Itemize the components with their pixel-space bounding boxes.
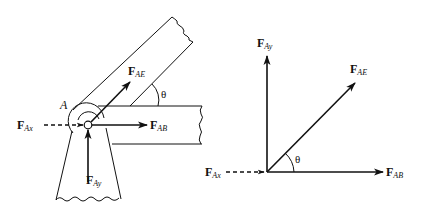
truss-joint-diagram: θ A FAx FAB FAE FAy FAy: [0, 0, 422, 213]
force-fay-label-left: FAy: [86, 173, 102, 188]
theta-label-right: θ: [295, 153, 300, 165]
force-fae-label-right: FAE: [350, 62, 367, 77]
left-panel-joint-sketch: θ A FAx FAB FAE FAy: [17, 17, 203, 201]
theta-label-left: θ: [161, 88, 166, 100]
force-fax-label-left: FAx: [17, 118, 33, 133]
force-fab-label-right: FAB: [386, 165, 403, 180]
point-a-label: A: [59, 98, 68, 112]
force-fax-label-right: FAx: [205, 165, 221, 180]
force-fay-label-right: FAy: [257, 36, 273, 51]
force-fae-arrow-right: [267, 83, 355, 172]
joint-inner-arc: [78, 112, 99, 120]
theta-arc-right: [285, 153, 294, 172]
theta-arc-left: [152, 84, 159, 106]
right-panel-free-body-diagram: FAy FAE FAx FAB θ: [205, 36, 403, 180]
force-fab-label-left: FAB: [150, 118, 167, 133]
pin-a: [84, 121, 92, 129]
force-fae-label-left: FAE: [128, 64, 145, 79]
